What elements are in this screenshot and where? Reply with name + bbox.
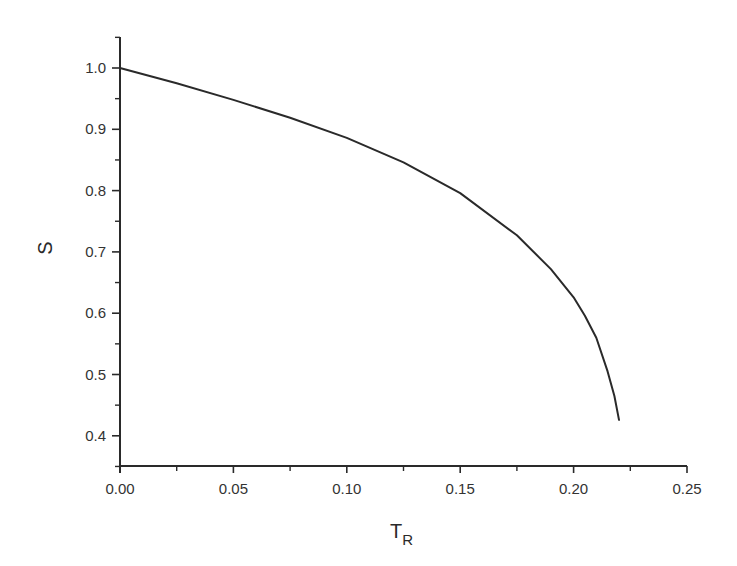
- x-tick-label: 0.10: [332, 480, 361, 497]
- y-tick-label: 0.9: [85, 120, 106, 137]
- y-tick-label: 0.4: [85, 427, 106, 444]
- plot-area: [120, 68, 619, 420]
- x-tick-label: 0.15: [446, 480, 475, 497]
- y-axis-title: S: [34, 241, 56, 254]
- y-tick-label: 0.7: [85, 243, 106, 260]
- x-tick-label: 0.25: [672, 480, 701, 497]
- x-axis: 0.000.050.100.150.200.25: [105, 466, 701, 497]
- y-tick-label: 1.0: [85, 59, 106, 76]
- y-tick-label: 0.6: [85, 304, 106, 321]
- x-axis-title-main: T: [390, 520, 402, 542]
- line-chart: 0.000.050.100.150.200.25 0.40.50.60.70.8…: [0, 0, 737, 566]
- y-tick-label: 0.5: [85, 366, 106, 383]
- x-tick-label: 0.00: [105, 480, 134, 497]
- x-axis-title: TR: [390, 520, 413, 548]
- x-axis-title-subscript: R: [402, 531, 413, 548]
- y-tick-label: 0.8: [85, 182, 106, 199]
- y-axis: 0.40.50.60.70.80.91.0: [85, 37, 120, 473]
- x-tick-label: 0.20: [559, 480, 588, 497]
- series-line: [120, 68, 619, 420]
- x-tick-label: 0.05: [219, 480, 248, 497]
